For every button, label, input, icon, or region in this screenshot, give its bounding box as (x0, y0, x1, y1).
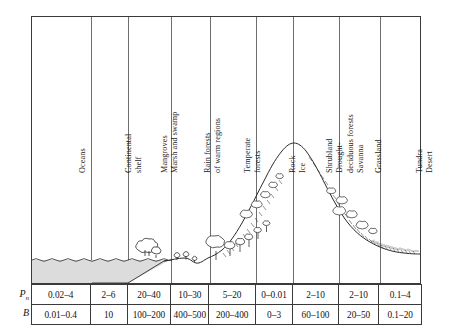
cell-b-tundradesert: 0.1–20 (379, 305, 422, 325)
slope-texture-hatching (223, 157, 415, 257)
cell-pn-rockice: 0–0.01 (255, 285, 292, 305)
table-row-pn: 0.02–4 2–6 20–40 10–30 5–20 0–0.01 2–10 … (32, 285, 422, 305)
cell-pn-rainforest: 10–30 (171, 285, 209, 305)
cell-b-rockice: 0–3 (255, 305, 292, 325)
diagram-frame: Oceans Continental shelf Mangroves Marsh… (31, 16, 421, 284)
row-label-pn: Pn (12, 288, 29, 301)
cell-pn-grassland: 2–10 (338, 285, 379, 305)
row-label-b-symbol: B (23, 307, 29, 318)
row-label-b: B (12, 307, 29, 318)
terrain-profile-drawing (32, 17, 420, 283)
marsh-shrubs (174, 252, 197, 263)
cell-pn-mangroves: 20–40 (127, 285, 171, 305)
cell-pn-oceans: 0.02–4 (32, 285, 91, 305)
cell-pn-shrubland: 2–10 (293, 285, 339, 305)
row-label-pn-subscript: n (26, 294, 29, 301)
cell-b-grassland: 20–50 (338, 305, 379, 325)
biome-profile-figure: Oceans Continental shelf Mangroves Marsh… (0, 0, 452, 336)
mangrove-vegetation (136, 238, 161, 258)
cell-b-shelf: 10 (90, 305, 127, 325)
land-profile-line (164, 143, 420, 263)
cell-b-rainforest: 400–500 (171, 305, 209, 325)
cell-pn-tundradesert: 0.1–4 (379, 285, 422, 305)
productivity-table: 0.02–4 2–6 20–40 10–30 5–20 0–0.01 2–10 … (31, 284, 422, 325)
table-row-b: 0.01–0.4 10 100–200 400–500 200–400 0–3 … (32, 305, 422, 325)
temperate-forest-trees (240, 174, 283, 218)
cell-pn-temperate: 5–20 (209, 285, 255, 305)
cell-b-oceans: 0.01–0.4 (32, 305, 91, 325)
cell-pn-shelf: 2–6 (90, 285, 127, 305)
cell-b-mangroves: 100–200 (127, 305, 171, 325)
cell-b-temperate: 200–400 (209, 305, 255, 325)
cell-b-shrubland: 60–100 (293, 305, 339, 325)
